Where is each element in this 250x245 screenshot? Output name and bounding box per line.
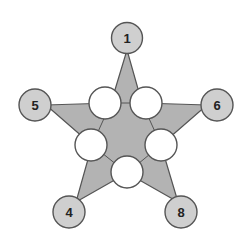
outer-node-bottom-right: 8 — [165, 196, 197, 228]
outer-node-right: 6 — [201, 89, 233, 121]
inner-node-middle-left[interactable] — [75, 129, 107, 161]
outer-node-label: 6 — [213, 98, 220, 113]
outer-node-label: 4 — [65, 205, 73, 220]
outer-node-label: 1 — [123, 31, 130, 46]
star-diagram: 1 5 6 4 8 — [0, 0, 250, 245]
inner-node-middle-right[interactable] — [145, 129, 177, 161]
inner-node-bottom[interactable] — [111, 156, 143, 188]
outer-node-label: 8 — [177, 205, 184, 220]
outer-node-left: 5 — [19, 89, 51, 121]
outer-node-bottom-left: 4 — [53, 196, 85, 228]
outer-node-label: 5 — [31, 98, 38, 113]
inner-node-upper-right[interactable] — [130, 87, 162, 119]
inner-node-upper-left[interactable] — [89, 87, 121, 119]
outer-node-top: 1 — [112, 23, 143, 54]
